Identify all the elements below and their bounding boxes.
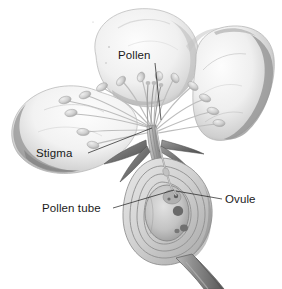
stigma-tip (159, 83, 164, 87)
label-pollen: Pollen (118, 49, 151, 61)
stigma-tip (152, 81, 157, 85)
egg-nucleus (173, 206, 183, 216)
stigma-tip (146, 81, 151, 85)
ovule-body (180, 225, 188, 232)
label-stigma: Stigma (36, 147, 73, 159)
flower-fertilization-figure: Pollen Stigma Pollen tube Ovule (0, 0, 282, 289)
label-pollen-tube: Pollen tube (42, 202, 101, 214)
label-ovule: Ovule (225, 193, 256, 205)
flower-diagram: Pollen Stigma Pollen tube Ovule (0, 0, 282, 289)
right-petal (193, 26, 274, 140)
pedicel (176, 254, 224, 289)
pollen-nucleus (167, 197, 170, 200)
ovule-body (174, 229, 179, 233)
